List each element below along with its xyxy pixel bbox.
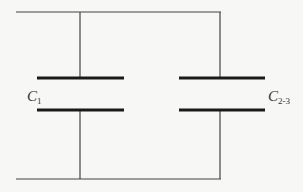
c23-label: C2-3 bbox=[268, 89, 290, 106]
c23-label-main: C bbox=[268, 88, 278, 104]
c1-label: C1 bbox=[27, 89, 42, 106]
circuit-diagram: C1 C2-3 bbox=[0, 0, 303, 192]
circuit-drawing bbox=[0, 0, 303, 192]
c1-label-main: C bbox=[27, 88, 37, 104]
c1-label-sub: 1 bbox=[37, 96, 42, 106]
c23-label-sub: 2-3 bbox=[278, 96, 290, 106]
